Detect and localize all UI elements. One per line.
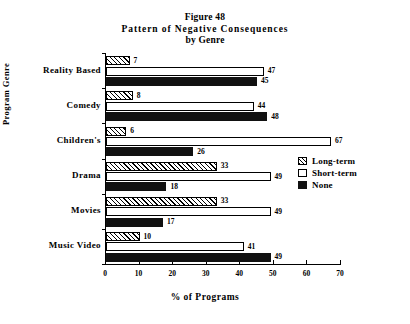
bar-value-label: 41 (248, 242, 256, 251)
bar-long-term (106, 232, 140, 241)
x-axis-tick-label: 0 (95, 269, 115, 278)
x-axis-title: % of Programs (0, 292, 410, 302)
x-axis-tick-label: 70 (330, 269, 350, 278)
bar-none (106, 147, 193, 156)
bar-long-term (106, 162, 217, 171)
legend-swatch-icon (298, 181, 307, 189)
y-axis-tick (102, 123, 106, 124)
x-axis-tick-label: 60 (296, 269, 316, 278)
bar-value-label: 67 (335, 136, 343, 145)
bar-value-label: 49 (275, 207, 283, 216)
bar-value-label: 17 (167, 217, 175, 226)
x-axis-tick-label: 10 (129, 269, 149, 278)
legend-item-long-term[interactable]: Long-term (298, 155, 357, 166)
chart-title: Figure 48 Pattern of Negative Consequenc… (0, 12, 410, 47)
y-axis-tick (102, 229, 106, 230)
bar-short-term (106, 207, 271, 216)
x-axis-tick-label: 40 (229, 269, 249, 278)
bar-short-term (106, 102, 254, 111)
bar-long-term (106, 56, 130, 65)
bar-none (106, 77, 257, 86)
bar-value-label: 6 (130, 126, 134, 135)
bar-value-label: 47 (268, 66, 276, 75)
chart-legend: Long-termShort-termNone (298, 155, 357, 191)
y-axis-tick (102, 264, 106, 265)
y-axis-tick (102, 159, 106, 160)
x-axis-line (105, 264, 341, 265)
legend-label: Short-term (312, 168, 357, 178)
bar-value-label: 49 (275, 252, 283, 261)
x-axis-tick (340, 260, 341, 264)
bar-value-label: 7 (134, 56, 138, 65)
bar-long-term (106, 197, 217, 206)
bar-none (106, 253, 271, 262)
bar-value-label: 10 (144, 232, 152, 241)
legend-swatch-icon (298, 157, 307, 165)
legend-item-short-term[interactable]: Short-term (298, 167, 357, 178)
y-axis-tick (102, 88, 106, 89)
y-axis-category-label: Music Video (49, 240, 101, 250)
bar-value-label: 33 (221, 161, 229, 170)
bar-value-label: 26 (197, 147, 205, 156)
bar-value-label: 45 (261, 76, 269, 85)
y-axis-tick (102, 53, 106, 54)
chart-title-line-2: Pattern of Negative Consequences (0, 24, 410, 36)
y-axis-category-label: Comedy (67, 100, 101, 110)
bar-value-label: 48 (271, 112, 279, 121)
chart-title-line-3: by Genre (0, 35, 410, 47)
bar-value-label: 49 (275, 172, 283, 181)
chart-title-line-1: Figure 48 (0, 12, 410, 24)
bar-value-label: 44 (258, 101, 266, 110)
y-axis-category-label: Drama (72, 170, 101, 180)
x-axis-tick-label: 50 (263, 269, 283, 278)
legend-item-none[interactable]: None (298, 179, 357, 190)
bar-none (106, 218, 163, 227)
legend-label: None (312, 180, 333, 190)
bar-none (106, 112, 267, 121)
y-axis-category-labels: Reality BasedComedyChildren'sDramaMovies… (0, 53, 101, 264)
bar-long-term (106, 91, 133, 100)
bar-short-term (106, 172, 271, 181)
figure-chart: Figure 48 Pattern of Negative Consequenc… (0, 0, 410, 324)
x-axis-tick-label: 30 (196, 269, 216, 278)
bar-short-term (106, 137, 331, 146)
bar-none (106, 182, 166, 191)
y-axis-category-label: Movies (71, 205, 101, 215)
x-axis-tick (306, 260, 307, 264)
y-axis-category-label: Children's (57, 135, 101, 145)
legend-label: Long-term (312, 156, 355, 166)
bar-short-term (106, 67, 264, 76)
bar-value-label: 18 (170, 182, 178, 191)
y-axis-tick (102, 194, 106, 195)
y-axis-category-label: Reality Based (43, 65, 101, 75)
bar-value-label: 33 (221, 196, 229, 205)
x-axis-tick-label: 20 (162, 269, 182, 278)
bar-long-term (106, 127, 126, 136)
bar-short-term (106, 242, 244, 251)
bar-value-label: 8 (137, 91, 141, 100)
legend-swatch-icon (298, 169, 307, 177)
